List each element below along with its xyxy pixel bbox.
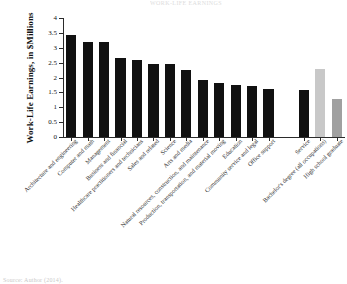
bar [332,99,342,137]
figure-work-life-earnings: WORK-LIFE EARNINGS Work-Life Earnings, i… [0,0,347,284]
bar [99,42,109,137]
bar [214,83,224,137]
y-axis-tick [59,63,63,64]
bar [198,80,208,137]
y-axis-tick-label: 4 [54,15,58,22]
bar [66,35,76,137]
y-axis-title-text: Work-Life Earnings, in $Millions [25,12,35,143]
y-axis-tick-label: 2 [54,74,58,81]
plot-area: 00.511.522.533.54 [63,18,345,137]
y-axis-title: Work-Life Earnings, in $Millions [24,18,36,137]
y-axis-tick [59,18,63,19]
y-axis-tick-label: 0 [54,134,58,141]
bar [83,42,93,137]
bar [181,70,191,137]
bar [299,90,309,137]
y-axis-tick-label: 3 [54,44,58,51]
y-axis-tick [59,33,63,34]
y-axis-tick-label: 2.5 [48,59,57,66]
y-axis-tick [59,78,63,79]
x-axis-category-labels: Architecture and engineeringComputer and… [63,138,347,258]
y-axis-tick-label: 1 [54,104,58,111]
y-axis-tick-label: 3.5 [48,29,57,36]
figure-title: WORK-LIFE EARNINGS [150,0,310,7]
y-axis-tick-label: 1.5 [48,89,57,96]
y-axis-tick [59,107,63,108]
bar [263,89,273,137]
bar [315,69,325,137]
y-axis-tick [59,48,63,49]
bar [132,60,142,137]
source-note: Source: Author (2014). [3,277,63,283]
y-axis-tick [59,122,63,123]
y-axis-tick [59,92,63,93]
bar [247,86,257,137]
bar [115,58,125,137]
bar [148,64,158,137]
y-axis-line [63,18,64,137]
bar [165,64,175,137]
y-axis-tick-label: 0.5 [48,119,57,126]
bar [231,85,241,137]
